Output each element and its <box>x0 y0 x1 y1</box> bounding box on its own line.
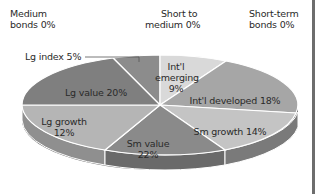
slice-label-intl-emerging-2: emerging <box>155 72 199 83</box>
slice-label-intl-emerging-3: 9% <box>169 83 184 94</box>
label-lg-index: Lg index 5% <box>25 51 81 62</box>
pie-chart: Int'l emerging 9% Int'l developed 18% Sm… <box>0 0 315 194</box>
slice-label-sm-growth: Sm growth 14% <box>194 126 267 137</box>
slice-label-lg-growth-2: 12% <box>54 127 75 138</box>
slice-label-intl-emerging: Int'l <box>168 61 185 72</box>
slice-label-sm-value-2: 22% <box>138 149 159 160</box>
slice-label-lg-growth: Lg growth <box>41 116 87 127</box>
right-border <box>312 0 315 194</box>
slice-label-sm-value: Sm value <box>127 138 170 149</box>
slice-label-intl-developed: Int'l developed 18% <box>190 95 281 106</box>
slice-label-lg-value: Lg value 20% <box>65 87 127 98</box>
